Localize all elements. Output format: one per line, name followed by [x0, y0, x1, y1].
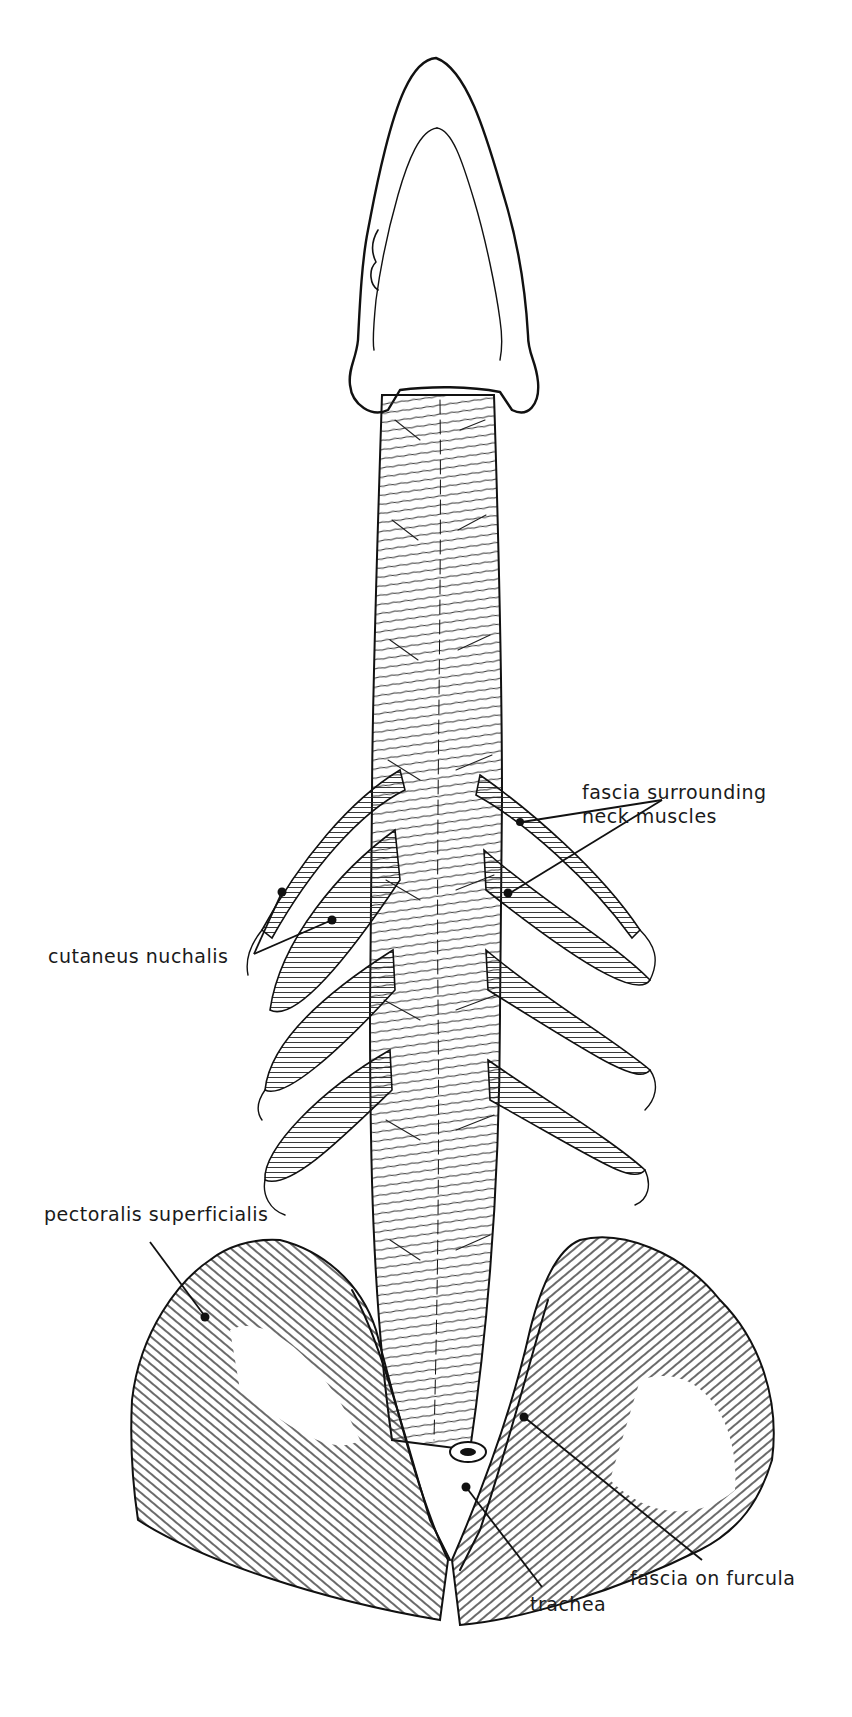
anatomical-illustration [0, 0, 852, 1717]
label-pectoralis-superficialis: pectoralis superficialis [44, 1202, 269, 1226]
trachea-structure [450, 1442, 486, 1462]
label-fascia-surrounding-neck-muscles: fascia surrounding neck muscles [582, 780, 767, 828]
neck [370, 395, 502, 1450]
cutaneus-nuchalis-bands-right [476, 775, 655, 1205]
label-trachea: trachea [530, 1592, 606, 1616]
label-cutaneus-nuchalis: cutaneus nuchalis [48, 944, 228, 968]
label-line-2: neck muscles [582, 804, 767, 828]
head-beak [350, 58, 539, 412]
label-fascia-on-furcula: fascia on furcula [630, 1566, 795, 1590]
label-line-1: fascia surrounding [582, 780, 767, 804]
